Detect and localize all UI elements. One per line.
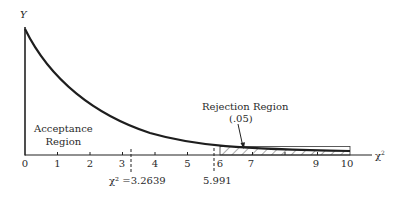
critical-value-label: 5.991 <box>203 176 232 186</box>
acceptance-line2: Region <box>34 135 93 148</box>
tick-label-0: 0 <box>22 159 28 169</box>
x-axis-label: χ2 <box>375 150 385 161</box>
tick-label-2: 2 <box>87 159 93 169</box>
tick-label-4: 4 <box>152 159 158 169</box>
tick-label-3: 3 <box>119 159 125 169</box>
acceptance-region-label: Acceptance Region <box>34 122 93 148</box>
tick-label-10: 10 <box>341 159 354 169</box>
tick-label-7: 7 <box>248 159 254 169</box>
tick-label-6: 6 <box>217 159 223 169</box>
rejection-region-label: Rejection Region <box>202 102 288 112</box>
tick-label-9: 9 <box>313 159 319 169</box>
alpha-label: (.05) <box>229 114 253 124</box>
acceptance-line1: Acceptance <box>34 122 93 135</box>
y-axis-label: Y <box>20 10 27 20</box>
test-statistic-label: χ² =3.2639 <box>109 176 166 186</box>
tick-label-5: 5 <box>184 159 190 169</box>
tick-label-1: 1 <box>54 159 60 169</box>
x-axis-superscript: 2 <box>381 149 385 156</box>
